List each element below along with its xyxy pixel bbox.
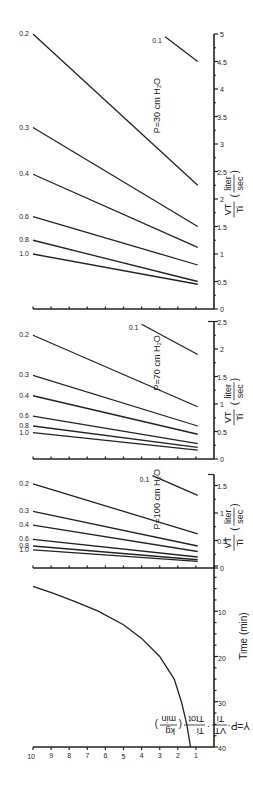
series-line-1.0 xyxy=(33,433,198,451)
svg-text:VT: VT xyxy=(223,537,233,549)
series-line-0.4 xyxy=(33,396,198,435)
series-line-1.0 xyxy=(33,550,198,562)
series-label: 0.6 xyxy=(19,535,29,542)
axis-labels: Y=P· VT Ti · Ti Ttot ( kg min ) Time (mi… xyxy=(155,612,250,736)
series-label: 0.4 xyxy=(19,521,29,528)
series-label: 0.3 xyxy=(19,507,29,514)
svg-text:VT: VT xyxy=(223,203,233,215)
series-label: 0.2 xyxy=(19,30,29,37)
svg-text:Ti: Ti xyxy=(235,414,245,421)
series-label: 0.6 xyxy=(19,213,29,220)
y-tick-label: 2 xyxy=(176,753,180,760)
svg-text:Ti: Ti xyxy=(235,539,245,546)
svg-text:(: ( xyxy=(229,401,240,405)
series-label: 0.8 xyxy=(19,236,29,243)
series-label: 0.3 xyxy=(19,371,29,378)
svg-text:VT: VT xyxy=(223,411,233,423)
pressure-annotation: P=30 cm H₂O xyxy=(152,78,162,133)
series-line-0.1 xyxy=(165,37,198,62)
x-tick-label: 2.5 xyxy=(217,319,227,326)
series-line-0.2 xyxy=(33,34,198,185)
series-line-1.0 xyxy=(33,254,198,284)
x-tick-label: 3 xyxy=(220,141,224,148)
y-tick-label: 8 xyxy=(67,753,71,760)
y-tick-label: 5 xyxy=(122,753,126,760)
svg-text:liter: liter xyxy=(223,384,233,399)
x-tick-label: 0.5 xyxy=(217,279,227,286)
y-tick-label: 6 xyxy=(103,753,107,760)
series-line-0.3 xyxy=(33,128,198,227)
series-line-0.6 xyxy=(33,217,198,265)
y-tick-label: 10 xyxy=(27,753,35,760)
x-tick-label: 0.5 xyxy=(217,429,227,436)
svg-text:Ti: Ti xyxy=(217,714,224,724)
y-tick-label: 4 xyxy=(140,753,144,760)
flow-axis-label: VTTi(litersec) xyxy=(223,378,245,425)
series-label: 0.1 xyxy=(129,324,139,331)
panel-P30: 00.511.522.533.544.551.00.80.60.40.30.20… xyxy=(19,30,245,313)
series-label: 0.3 xyxy=(19,124,29,131)
series-line-0.4 xyxy=(33,174,198,247)
flow-axis-label: VTTi(litersec) xyxy=(223,170,245,217)
x-tick-label: 3.5 xyxy=(217,114,227,121)
x-tick-label: 2 xyxy=(220,346,224,353)
svg-text:sec: sec xyxy=(235,384,245,399)
flow-axis-label: VTTi(litersec) xyxy=(223,503,245,550)
series-label: 0.8 xyxy=(19,542,29,549)
y-axis: 12345678910 xyxy=(27,747,214,760)
x-tick-label: 0 xyxy=(220,456,224,463)
svg-text:(: ( xyxy=(229,527,240,531)
svg-text:): ) xyxy=(229,378,240,381)
x-tick-label: 40 xyxy=(218,745,226,752)
x-tick-label: 1.5 xyxy=(217,374,227,381)
svg-text:VT: VT xyxy=(214,726,226,736)
series-line-0.8 xyxy=(33,240,198,281)
svg-text:Ttot: Ttot xyxy=(188,714,204,724)
x-tick-label: 30 xyxy=(218,700,226,707)
pressure-annotation: P=70 cm H₂O xyxy=(152,335,162,390)
series-line-0.1 xyxy=(142,324,198,354)
figure: 123456789101020304000.511.51.00.80.60.40… xyxy=(0,0,253,794)
svg-text:min: min xyxy=(161,714,176,724)
x-tick-label: 4.5 xyxy=(217,59,227,66)
x-tick-label: 1 xyxy=(220,401,224,408)
panel-P70: 00.511.522.51.00.80.60.40.30.20.1P=70 cm… xyxy=(19,319,245,464)
svg-text:·: · xyxy=(207,721,210,732)
series-label: 0.2 xyxy=(19,331,29,338)
x-tick-label: 20 xyxy=(218,655,226,662)
x-tick-label: 0 xyxy=(220,306,224,313)
svg-text:(: ( xyxy=(229,194,240,198)
series-label: 0.8 xyxy=(19,422,29,429)
series-label: 1.0 xyxy=(19,429,29,436)
y-tick-label: 7 xyxy=(85,753,89,760)
panel-P100: 00.511.51.00.80.60.40.30.20.1P=100 cm H₂… xyxy=(19,469,245,572)
svg-text:): ) xyxy=(229,503,240,506)
time-axis-label: Time (min) xyxy=(238,612,249,659)
series-label: 0.6 xyxy=(19,412,29,419)
x-tick-label: 1.5 xyxy=(217,224,227,231)
x-tick-label: 1 xyxy=(220,251,224,258)
svg-text:(: ( xyxy=(178,719,182,730)
svg-text:liter: liter xyxy=(223,509,233,524)
y-axis-label: Y=P· VT Ti · Ti Ttot ( kg min ) xyxy=(155,714,250,736)
svg-text:): ) xyxy=(155,719,158,730)
series-line-0.2 xyxy=(33,484,198,534)
series-label: 0.2 xyxy=(19,480,29,487)
svg-text:Ti: Ti xyxy=(235,206,245,213)
x-tick-label: 0 xyxy=(220,565,224,572)
y-tick-label: 3 xyxy=(158,753,162,760)
series-label: 0.1 xyxy=(152,37,162,44)
x-tick-label: 2.5 xyxy=(217,169,227,176)
series-line-0.2 xyxy=(33,335,198,407)
svg-text:sec: sec xyxy=(235,509,245,524)
y-tick-label: 1 xyxy=(194,753,198,760)
x-tick-label: 2 xyxy=(220,196,224,203)
rotated-plot-group: 123456789101020304000.511.51.00.80.60.40… xyxy=(19,30,250,760)
svg-text:Y=P·: Y=P· xyxy=(227,720,250,731)
series-line-0.3 xyxy=(33,375,198,426)
series-label: 1.0 xyxy=(19,250,29,257)
svg-text:Ti: Ti xyxy=(197,726,204,736)
x-tick-label: 1.5 xyxy=(217,483,227,490)
pressure-annotation: P=100 cm H₂O xyxy=(152,469,162,529)
series-label: 0.1 xyxy=(140,476,150,483)
